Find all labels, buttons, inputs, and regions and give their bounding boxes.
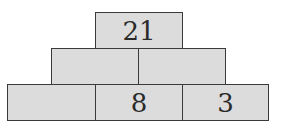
pyramid-middle-right-cell[interactable] xyxy=(138,48,226,85)
pyramid-bottom-left-cell[interactable] xyxy=(7,84,96,121)
pyramid-bottom-middle-cell[interactable]: 8 xyxy=(95,84,183,121)
pyramid-middle-left-cell[interactable] xyxy=(51,48,139,85)
pyramid-top-cell[interactable]: 21 xyxy=(95,12,183,49)
pyramid-bottom-right-cell[interactable]: 3 xyxy=(182,84,269,121)
